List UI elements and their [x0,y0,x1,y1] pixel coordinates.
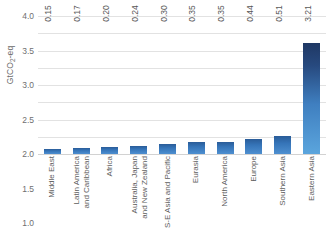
bar: 0.44 [245,139,262,154]
bar-slot: 0.17 [67,16,96,154]
bar-slot: 0.51 [268,16,297,154]
category-slot: North America [211,156,240,236]
bar-slot: 0.20 [96,16,125,154]
bar-chart: GtCO2-eq 4.03.53.02.52.01.51.00.50.0 0.1… [0,0,332,237]
bar: 0.35 [217,142,234,154]
x-axis-tick-label: Eurasia [192,156,202,236]
bar-value-label: 0.30 [159,5,168,22]
bar-series: 0.150.170.200.240.300.350.350.440.513.21 [38,16,326,154]
bar-value-label: 0.15 [44,5,53,22]
x-axis-tick-label: Latin America and Caribbean [72,156,91,236]
x-axis-category-labels: Middle EastLatin America and CaribbeanAf… [38,156,326,236]
bar-slot: 0.35 [182,16,211,154]
bar-value-label: 0.44 [245,5,254,22]
bar: 0.17 [73,148,90,154]
plot-area: 4.03.53.02.52.01.51.00.50.0 0.150.170.20… [38,16,326,154]
y-axis-tick-label: 1.0 [22,219,34,228]
bar: 0.24 [130,146,147,154]
bar-slot: 0.35 [211,16,240,154]
bar: 0.15 [44,149,61,154]
y-axis-tick-label: 3.0 [22,81,34,90]
bar-value-label: 0.35 [217,5,226,22]
y-axis-tick-label: 4.0 [22,12,34,21]
category-slot: Eurasia [182,156,211,236]
bar-slot: 0.30 [153,16,182,154]
bar-slot: 0.44 [240,16,269,154]
category-slot: Middle East [38,156,67,236]
y-axis-title-post: -eq [5,46,15,59]
x-axis-tick-label: Eastern Asia [307,156,317,236]
x-axis-tick-label: Southern Asia [278,156,288,236]
bar-slot: 3.21 [297,16,326,154]
bar-value-label: 0.24 [130,5,139,22]
category-slot: Eastern Asia [297,156,326,236]
y-axis-title-subscript: 2 [9,58,16,62]
y-axis-tick-label: 2.5 [22,115,34,124]
y-axis-tick-label: 1.5 [22,184,34,193]
category-slot: Europe [240,156,269,236]
x-axis-tick-label: Europe [249,156,259,236]
y-axis-tick-label: 3.5 [22,46,34,55]
bar: 0.20 [101,147,118,154]
bar-value-label: 0.51 [274,5,283,22]
bar-value-label: 0.20 [101,5,110,22]
bar-slot: 0.24 [124,16,153,154]
bar: 0.51 [274,136,291,154]
category-slot: S-E Asia and Pacific [153,156,182,236]
bar-value-label: 3.21 [303,5,312,22]
category-slot: Australia, Japan and New Zealand [124,156,153,236]
bar-value-label: 0.35 [188,5,197,22]
bar: 0.35 [188,142,205,154]
category-slot: Africa [96,156,125,236]
x-axis-tick-label: Middle East [48,156,58,236]
bar-value-label: 0.17 [73,5,82,22]
y-axis-title-pre: GtCO [5,62,15,84]
x-axis-tick-label: Africa [105,156,115,236]
y-axis-title: GtCO2-eq [5,30,15,100]
category-slot: Latin America and Caribbean [67,156,96,236]
category-slot: Southern Asia [268,156,297,236]
bar: 3.21 [303,43,320,154]
bar-slot: 0.15 [38,16,67,154]
x-axis-tick-label: North America [220,156,230,236]
y-axis-tick-label: 2.0 [22,150,34,159]
x-axis-tick-label: Australia, Japan and New Zealand [129,156,148,236]
axis-baseline: 0.0 [38,154,326,155]
bar: 0.30 [159,144,176,154]
x-axis-tick-label: S-E Asia and Pacific [163,156,173,236]
